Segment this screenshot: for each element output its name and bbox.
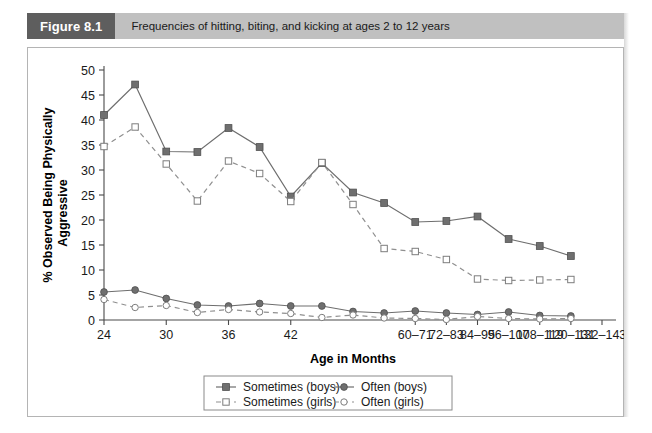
x-tick-label: 30 xyxy=(159,328,173,342)
y-tick-label: 25 xyxy=(81,189,95,203)
data-point-marker xyxy=(132,304,138,310)
data-point-marker xyxy=(288,198,294,204)
data-point-marker xyxy=(194,302,201,309)
line-chart: 05101520253035404550 2430364260–7172–838… xyxy=(28,48,625,418)
chart-legend: Sometimes (boys)Often (boys)Sometimes (g… xyxy=(204,376,452,410)
data-point-marker xyxy=(505,309,512,316)
data-point-marker xyxy=(412,315,418,321)
page-edge-shading xyxy=(624,13,629,417)
data-point-marker xyxy=(225,306,231,312)
x-tick-label: 36 xyxy=(222,328,236,342)
series-line xyxy=(104,127,571,281)
data-point-marker xyxy=(319,314,325,320)
data-point-marker xyxy=(223,384,230,391)
y-axis-title: % Observed Being Physically xyxy=(41,107,55,282)
figure-caption-bar: Figure 8.1 Frequencies of hitting, bitin… xyxy=(27,13,624,39)
y-tick-label: 15 xyxy=(81,239,95,253)
data-point-marker xyxy=(256,170,262,176)
x-tick-label: 60–71 xyxy=(398,328,433,342)
data-point-marker xyxy=(474,213,481,220)
series-2 xyxy=(101,287,575,320)
series-line xyxy=(104,300,571,320)
data-point-marker xyxy=(287,303,294,310)
data-point-marker xyxy=(443,218,450,225)
series-1 xyxy=(101,124,574,284)
data-point-marker xyxy=(381,315,387,321)
legend-item: Often (boys) xyxy=(334,380,427,394)
x-axis: 2430364260–7172–8384–9596–107108–119120–… xyxy=(97,320,625,342)
data-point-marker xyxy=(350,189,357,196)
legend-label: Sometimes (boys) xyxy=(243,380,340,394)
data-point-marker xyxy=(505,277,511,283)
data-point-marker xyxy=(223,399,229,405)
data-point-marker xyxy=(350,312,356,318)
legend-item: Often (girls) xyxy=(334,395,424,409)
y-tick-label: 50 xyxy=(81,64,95,78)
data-point-marker xyxy=(288,310,294,316)
data-point-marker xyxy=(536,243,543,250)
data-point-marker xyxy=(101,289,108,296)
y-tick-label: 40 xyxy=(81,114,95,128)
data-point-marker xyxy=(225,125,232,132)
data-point-marker xyxy=(474,313,480,319)
legend-item: Sometimes (girls) xyxy=(216,395,336,409)
data-point-marker xyxy=(256,300,263,307)
data-point-marker xyxy=(537,316,543,322)
chart-canvas: 05101520253035404550 2430364260–7172–838… xyxy=(28,48,625,418)
data-point-marker xyxy=(132,287,139,294)
data-point-marker xyxy=(101,143,107,149)
data-point-marker xyxy=(350,201,356,207)
data-point-marker xyxy=(194,149,201,156)
y-tick-label: 45 xyxy=(81,89,95,103)
y-tick-label: 35 xyxy=(81,139,95,153)
data-point-marker xyxy=(443,310,450,317)
y-axis-title: Aggressive xyxy=(56,179,70,246)
legend-label: Often (boys) xyxy=(361,380,427,394)
data-point-marker xyxy=(341,399,347,405)
data-point-marker xyxy=(443,256,449,262)
data-point-marker xyxy=(381,245,387,251)
data-point-marker xyxy=(163,302,169,308)
data-series-layer xyxy=(101,81,575,323)
data-point-marker xyxy=(505,236,512,243)
data-point-marker xyxy=(132,124,138,130)
data-point-marker xyxy=(568,276,574,282)
data-point-marker xyxy=(132,81,139,88)
data-point-marker xyxy=(567,253,574,260)
legend-label: Sometimes (girls) xyxy=(243,395,336,409)
figure-number-badge: Figure 8.1 xyxy=(27,13,115,39)
data-point-marker xyxy=(101,296,107,302)
data-point-marker xyxy=(474,276,480,282)
y-tick-label: 0 xyxy=(88,314,95,328)
data-point-marker xyxy=(163,148,170,155)
data-point-marker xyxy=(256,309,262,315)
chart-panel: 05101520253035404550 2430364260–7172–838… xyxy=(27,47,624,417)
data-point-marker xyxy=(101,112,108,119)
data-point-marker xyxy=(568,315,574,321)
x-axis-title: Age in Months xyxy=(310,352,396,366)
data-point-marker xyxy=(163,295,170,302)
y-axis: 05101520253035404550 xyxy=(81,64,104,328)
data-point-marker xyxy=(443,316,449,322)
y-tick-label: 30 xyxy=(81,164,95,178)
data-point-marker xyxy=(163,161,169,167)
data-point-marker xyxy=(412,308,419,315)
series-line xyxy=(104,290,571,316)
x-tick-label: 24 xyxy=(97,328,111,342)
x-tick-label: 132–143 xyxy=(578,328,625,342)
data-point-marker xyxy=(194,198,200,204)
data-point-marker xyxy=(225,158,231,164)
data-point-marker xyxy=(412,248,418,254)
data-point-marker xyxy=(341,384,348,391)
data-point-marker xyxy=(256,144,263,151)
series-line xyxy=(104,85,571,257)
x-tick-label: 72–83 xyxy=(429,328,464,342)
data-point-marker xyxy=(381,200,388,207)
data-point-marker xyxy=(194,309,200,315)
data-point-marker xyxy=(318,303,325,310)
y-tick-label: 5 xyxy=(88,289,95,303)
legend-label: Often (girls) xyxy=(361,395,424,409)
data-point-marker xyxy=(505,315,511,321)
x-tick-label: 42 xyxy=(284,328,298,342)
y-tick-label: 20 xyxy=(81,214,95,228)
